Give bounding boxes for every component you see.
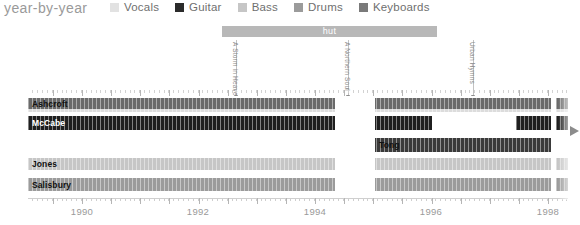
top-ruler-tick-minor	[222, 90, 223, 93]
track-segment	[28, 98, 335, 109]
record-label-bar: hut	[222, 26, 437, 37]
axis-tick-minor	[324, 198, 325, 201]
axis-tick-minor	[469, 198, 470, 201]
member-name-label: Ashcroft	[32, 99, 68, 109]
axis-tick-major	[228, 198, 229, 204]
top-ruler-tick-minor	[537, 90, 538, 93]
top-ruler-tick-minor	[484, 90, 485, 93]
legend-label: Drums	[308, 1, 343, 13]
top-ruler-tick-minor	[178, 90, 179, 93]
axis-tick-minor	[32, 198, 33, 201]
top-ruler-tick-minor	[91, 90, 92, 93]
axis-tick-major	[402, 198, 403, 204]
axis-tick-minor	[149, 198, 150, 201]
top-ruler-tick-minor	[406, 90, 407, 93]
top-ruler-tick-minor	[261, 90, 262, 93]
axis-tick-major	[286, 198, 287, 204]
axis-tick-minor	[309, 198, 310, 201]
axis-tick-minor	[474, 198, 475, 201]
axis-tick-minor	[105, 198, 106, 201]
axis-tick-minor	[295, 198, 296, 201]
axis-tick-minor	[71, 198, 72, 201]
top-ruler-tick-minor	[338, 90, 339, 93]
legend-item-keyboards: Keyboards	[359, 1, 430, 13]
axis-tick-minor	[96, 198, 97, 201]
axis-tick-minor	[154, 198, 155, 201]
axis-tick-minor	[76, 198, 77, 201]
axis-tick-minor	[62, 198, 63, 201]
top-ruler-tick-minor	[71, 90, 72, 93]
axis-tick-minor	[202, 198, 203, 201]
top-ruler-tick-minor	[566, 90, 567, 93]
axis-tick-minor	[173, 198, 174, 201]
axis-tick-minor	[338, 198, 339, 201]
axis-tick-minor	[275, 198, 276, 201]
axis-tick-minor	[367, 198, 368, 201]
track-segment	[375, 109, 551, 112]
legend-item-vocals: Vocals	[110, 1, 159, 13]
track-guitar-mccabe: McCabe	[0, 116, 580, 130]
axis-tick-minor	[392, 198, 393, 201]
legend-swatch-icon	[294, 3, 303, 12]
top-ruler-tick-minor	[47, 90, 48, 93]
timeline-arrow-icon	[570, 126, 579, 136]
axis-tick-major	[344, 198, 345, 204]
axis-tick-minor	[348, 198, 349, 201]
axis-tick-minor	[329, 198, 330, 201]
track-segment	[375, 138, 551, 152]
legend-item-bass: Bass	[238, 1, 278, 13]
top-ruler-tick-minor	[246, 90, 247, 93]
top-ruler-tick-minor	[557, 90, 558, 93]
track-segment	[375, 98, 551, 109]
member-name-label: McCabe	[32, 118, 65, 128]
axis-tick-minor	[484, 198, 485, 201]
top-ruler-tick-minor	[154, 90, 155, 93]
top-ruler-tick-minor	[445, 90, 446, 93]
axis-tick-minor	[270, 198, 271, 201]
top-ruler-tick-minor	[265, 90, 266, 93]
top-ruler-tick-minor	[115, 90, 116, 93]
axis-tick-minor	[37, 198, 38, 201]
top-ruler-tick-minor	[426, 90, 427, 93]
axis-tick-minor	[440, 198, 441, 201]
top-ruler-tick-minor	[188, 90, 189, 93]
track-segment	[375, 158, 551, 170]
timeline-chart: AshcroftMcCabeTongJonesSalisbury	[0, 96, 580, 200]
top-ruler-tick-minor	[503, 90, 504, 93]
axis-tick-major	[82, 198, 83, 204]
timeline-continues-fade	[558, 96, 580, 200]
track-segment	[28, 109, 335, 112]
axis-tick-major	[461, 198, 462, 204]
top-ruler-tick-minor	[164, 90, 165, 93]
axis-tick-minor	[265, 198, 266, 201]
top-ruler-tick-minor	[241, 90, 242, 93]
axis-tick-minor	[498, 198, 499, 201]
axis-tick-minor	[465, 198, 466, 201]
track-bass-jones: Jones	[0, 158, 580, 170]
legend-label: Keyboards	[373, 1, 430, 13]
top-ruler-tick-minor	[183, 90, 184, 93]
top-ruler-tick-minor	[149, 90, 150, 93]
top-ruler-tick-minor	[134, 90, 135, 93]
axis-tick-minor	[450, 198, 451, 201]
axis-tick-minor	[222, 198, 223, 201]
legend-label: Bass	[252, 1, 278, 13]
axis-tick-major	[315, 198, 316, 204]
top-ruler-tick-minor	[329, 90, 330, 93]
top-ruler-tick-minor	[363, 90, 364, 93]
top-ruler-tick-minor	[348, 90, 349, 93]
axis-tick-minor	[304, 198, 305, 201]
axis-tick-minor	[503, 198, 504, 201]
top-ruler-tick-minor	[76, 90, 77, 93]
axis-tick-minor	[91, 198, 92, 201]
legend-swatch-icon	[359, 3, 368, 12]
top-ruler-tick-minor	[479, 90, 480, 93]
chart-header: year-by-year VocalsGuitarBassDrumsKeyboa…	[0, 0, 580, 20]
axis-tick-major	[111, 198, 112, 204]
legend-item-guitar: Guitar	[175, 1, 222, 13]
axis-tick-minor	[251, 198, 252, 201]
axis-tick-minor	[387, 198, 388, 201]
axis-tick-minor	[125, 198, 126, 201]
axis-tick-minor	[532, 198, 533, 201]
top-ruler-tick-minor	[421, 90, 422, 93]
